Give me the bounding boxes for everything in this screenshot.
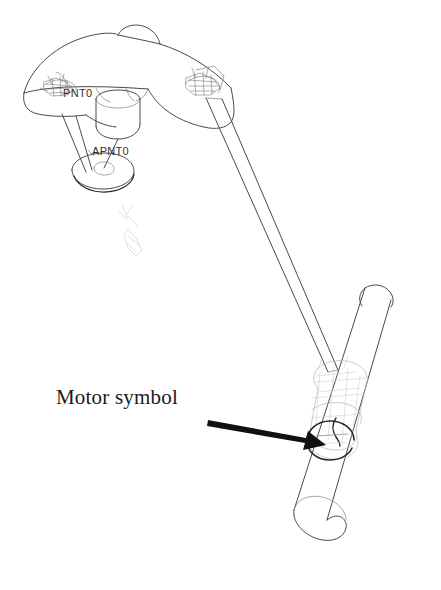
pulley-strut-right — [76, 116, 92, 170]
dome-right-lobe — [166, 88, 234, 128]
upper-platform-dome — [24, 25, 234, 139]
pulley-outer-ellipse — [72, 153, 134, 189]
dome-panel-line-2 — [126, 88, 134, 101]
cad-line-drawing: PNT0 APNT0 — [0, 0, 441, 590]
dome-upper-left-edge — [24, 33, 118, 93]
leader-arrow — [207, 420, 326, 450]
figure-canvas: PNT0 APNT0 Motor symbol — [0, 0, 441, 590]
dome-upper-right-edge — [160, 44, 231, 88]
cylinder-left-edge — [294, 288, 365, 510]
rod-bottom-cap — [328, 370, 338, 372]
cad-tag-pnt0: PNT0 — [63, 87, 92, 99]
rod-top-cap — [206, 98, 222, 99]
small-detail-symbol — [118, 204, 142, 256]
connecting-rod-left — [206, 98, 328, 372]
connecting-rod-right — [222, 99, 338, 370]
dome-center-right — [148, 89, 166, 110]
connecting-rods — [60, 98, 338, 372]
hub-bottom-arc — [96, 124, 140, 139]
lower-cylinder-link — [294, 285, 393, 540]
dome-top-bump-base — [118, 35, 160, 44]
pulley-hub-hole — [94, 162, 114, 175]
cylinder-right-edge — [327, 300, 391, 520]
cad-tag-apnt0: APNT0 — [92, 145, 129, 157]
dome-center-left — [86, 115, 116, 127]
motor-symbol-label: Motor symbol — [56, 385, 178, 410]
dome-top-bump — [118, 25, 160, 44]
right-joint-cluster — [185, 66, 224, 95]
cylinder-bottom-ellipse — [294, 510, 347, 540]
cylinder-top-cap-arc — [365, 285, 393, 307]
